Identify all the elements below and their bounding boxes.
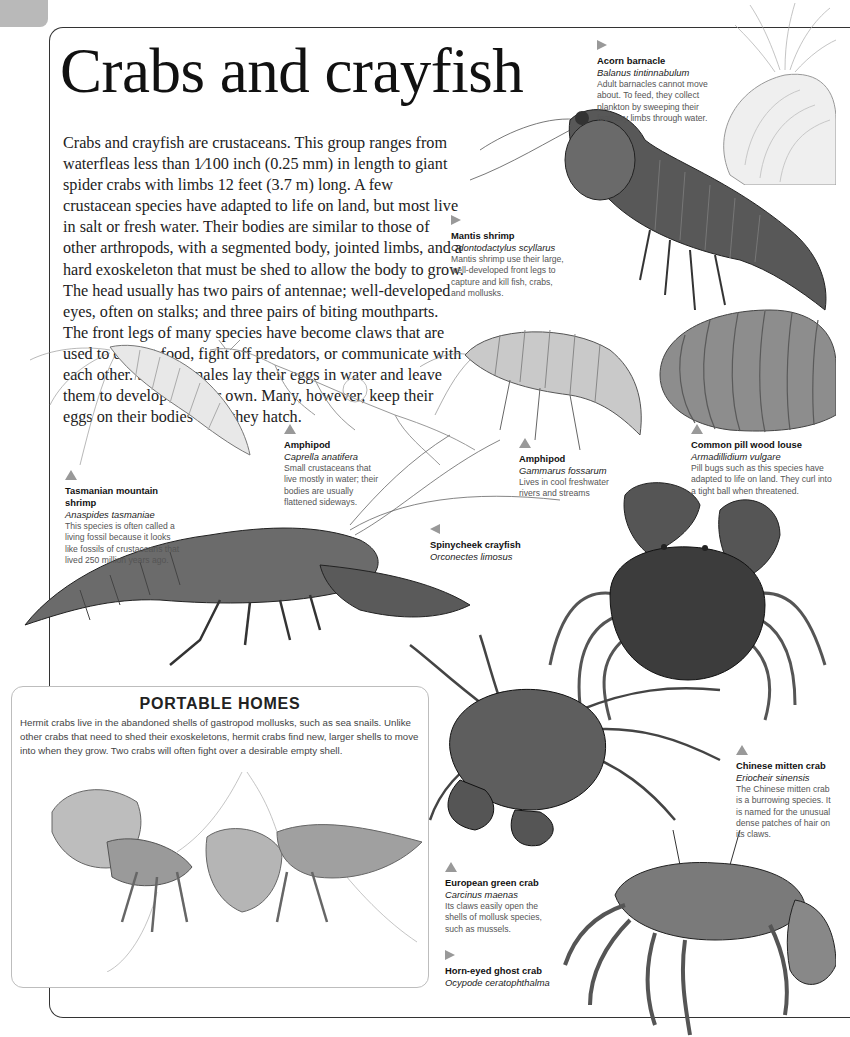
pointer-up-icon	[284, 424, 296, 434]
caption-tasmanian-mountain-shrimp: Tasmanian mountain shrimp Anaspides tasm…	[65, 470, 185, 566]
pointer-up-icon	[519, 438, 531, 448]
sidebar-heading: PORTABLE HOMES	[12, 695, 428, 713]
pointer-right-icon	[597, 40, 607, 50]
page-number-tab	[0, 0, 48, 27]
portable-homes-sidebar: PORTABLE HOMES Hermit crabs live in the …	[11, 686, 429, 988]
caption-european-green-crab: European green crab Carcinus maenas Its …	[445, 862, 545, 935]
pointer-up-icon	[65, 470, 77, 480]
caption-spinycheek-crayfish: Spinycheek crayfish Orconectes limosus	[430, 524, 540, 563]
caption-mantis-shrimp: Mantis shrimp Odontodactylus scyllarus M…	[451, 215, 567, 299]
horn-eyed-ghost-crab-illustration	[555, 825, 836, 1037]
caption-acorn-barnacle: Acorn barnacle Balanus tintinnabulum Adu…	[597, 40, 711, 124]
hermit-crabs-illustration	[27, 772, 427, 972]
pointer-up-icon	[736, 745, 748, 755]
pointer-right-icon	[445, 950, 455, 960]
pointer-left-icon	[430, 524, 440, 534]
caption-chinese-mitten-crab: Chinese mitten crab Eriocheir sinensis T…	[736, 745, 836, 840]
caption-common-pill-wood-louse: Common pill wood louse Armadillidium vul…	[691, 424, 836, 497]
page-title: Crabs and crayfish	[60, 40, 523, 103]
caption-amphipod-gammarus: Amphipod Gammarus fossarum Lives in cool…	[519, 438, 619, 500]
caption-horn-eyed-ghost-crab: Horn-eyed ghost crab Ocypode ceratophtha…	[445, 950, 565, 989]
sidebar-text: Hermit crabs live in the abandoned shell…	[20, 716, 420, 759]
pill-wood-louse-illustration	[650, 305, 836, 435]
pointer-up-icon	[445, 862, 457, 872]
pointer-up-icon	[691, 424, 703, 434]
pointer-right-icon	[451, 215, 461, 225]
caption-amphipod-caprella: Amphipod Caprella anatifera Small crusta…	[284, 424, 384, 508]
